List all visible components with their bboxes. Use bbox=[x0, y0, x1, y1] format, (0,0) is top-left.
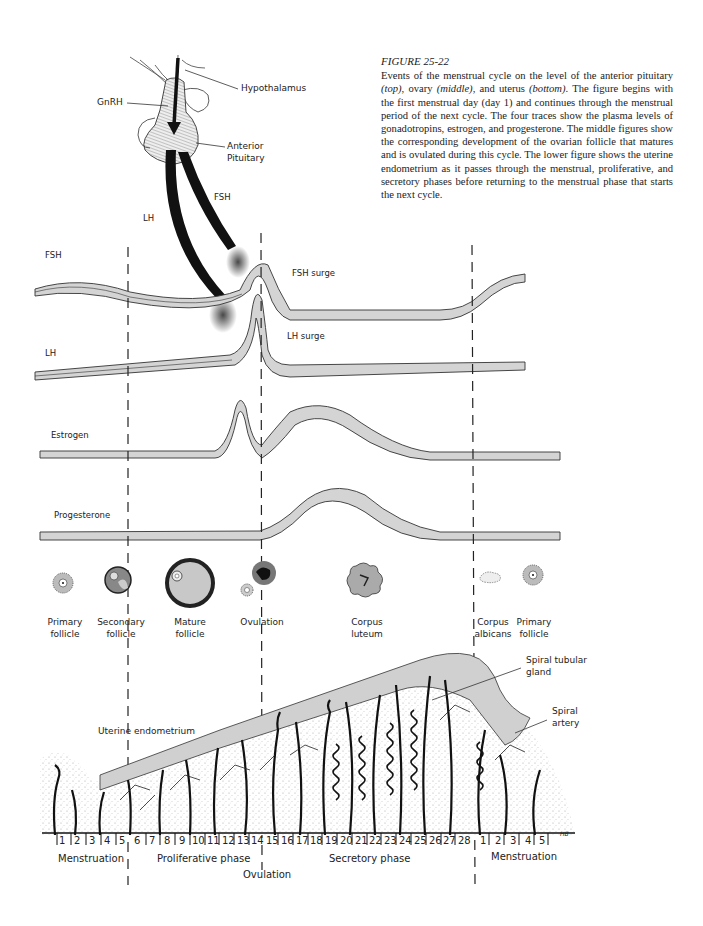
ovary-stage-ovulation: Ovulation bbox=[237, 616, 287, 628]
day-label: 21 bbox=[355, 835, 368, 846]
day-label: 20 bbox=[340, 835, 353, 846]
phase-menstruation-label: Menstruation bbox=[58, 853, 124, 864]
day-label: 7 bbox=[149, 835, 155, 846]
anterior-pituitary-line1: Anterior bbox=[227, 141, 263, 151]
day-label: 4 bbox=[104, 835, 110, 846]
day-label: 25 bbox=[414, 835, 427, 846]
day-label: 11 bbox=[207, 835, 220, 846]
lh-arrow-label: LH bbox=[143, 213, 154, 223]
pituitary-illustration bbox=[127, 55, 238, 164]
artist-initials: HB bbox=[560, 830, 569, 837]
day-label: 5 bbox=[119, 835, 125, 846]
mature-follicle-icon bbox=[167, 560, 213, 606]
stage-line1: Mature bbox=[174, 617, 206, 627]
day-label: 12 bbox=[222, 835, 235, 846]
day-label: 18 bbox=[310, 835, 323, 846]
spiral-tubular-gland-label: Spiral tubulargland bbox=[526, 654, 587, 678]
day-label: 6 bbox=[134, 835, 140, 846]
spiral-gland-line1: Spiral tubular bbox=[526, 655, 587, 665]
ovary-stage-corpus-luteum: Corpusluteum bbox=[345, 616, 389, 640]
day-label: 16 bbox=[281, 835, 294, 846]
estrogen-trace bbox=[40, 400, 560, 460]
spiral-artery-line2: artery bbox=[552, 718, 579, 728]
stage-line1: Secondary bbox=[97, 617, 145, 627]
phase-secretory-label: Secretory phase bbox=[329, 853, 410, 864]
fsh-arrow-label: FSH bbox=[214, 192, 231, 202]
uterine-endometrium bbox=[40, 653, 575, 835]
day-label: 17 bbox=[296, 835, 309, 846]
stage-line2: follicle bbox=[175, 629, 204, 639]
stage-line1: Primary bbox=[517, 617, 552, 627]
stage-line2: follicle bbox=[106, 629, 135, 639]
day-label: 1 bbox=[480, 835, 486, 846]
progesterone-trace-label: Progesterone bbox=[54, 510, 110, 520]
spiral-gland-line2: gland bbox=[526, 667, 551, 677]
ovary-stage-mature-follicle: Maturefollicle bbox=[168, 616, 212, 640]
primary-follicle-next-icon bbox=[523, 565, 543, 585]
ovary-stages bbox=[53, 560, 543, 606]
phase-proliferative-label: Proliferative phase bbox=[157, 853, 250, 864]
stage-line1: Corpus bbox=[351, 617, 383, 627]
gnrh-label: GnRH bbox=[97, 97, 123, 107]
fsh-trace-label: FSH bbox=[45, 250, 62, 260]
progesterone-trace bbox=[40, 488, 560, 540]
corpus-albicans-icon bbox=[480, 572, 500, 583]
ovary-stage-primary-follicle-next: Primaryfollicle bbox=[514, 616, 554, 640]
corpus-luteum-icon bbox=[347, 563, 383, 597]
primary-follicle-icon bbox=[53, 573, 73, 593]
anterior-pituitary-label: AnteriorPituitary bbox=[227, 140, 265, 164]
day-label: 2 bbox=[74, 835, 80, 846]
day-label: 15 bbox=[266, 835, 279, 846]
day-label: 3 bbox=[510, 835, 516, 846]
uterine-endometrium-label: Uterine endometrium bbox=[98, 726, 195, 736]
day-label: 3 bbox=[89, 835, 95, 846]
ovary-stage-primary-follicle: Primaryfollicle bbox=[43, 616, 87, 640]
stage-line1: Ovulation bbox=[240, 617, 283, 627]
day-label: 8 bbox=[164, 835, 170, 846]
phase-ovulation-label: Ovulation bbox=[243, 869, 291, 880]
day-label: 22 bbox=[369, 835, 382, 846]
spiral-artery-label: Spiralartery bbox=[552, 705, 579, 729]
day-label: 19 bbox=[325, 835, 338, 846]
ovary-stage-corpus-albicans: Corpusalbicans bbox=[472, 616, 514, 640]
estrogen-trace-label: Estrogen bbox=[51, 430, 89, 440]
ovulation-icon bbox=[241, 561, 276, 596]
day-label: 23 bbox=[384, 835, 397, 846]
menstrual-cycle-diagram bbox=[0, 0, 703, 926]
stage-line2: follicle bbox=[519, 629, 548, 639]
day-label: 4 bbox=[525, 835, 531, 846]
anterior-pituitary-line2: Pituitary bbox=[227, 153, 265, 163]
day-label: 14 bbox=[251, 835, 264, 846]
stage-line2: luteum bbox=[351, 629, 383, 639]
day-label: 10 bbox=[192, 835, 205, 846]
ovary-stage-secondary-follicle: Secondaryfollicle bbox=[94, 616, 148, 640]
day-label: 28 bbox=[458, 835, 471, 846]
day-label: 9 bbox=[179, 835, 185, 846]
day-label: 5 bbox=[539, 835, 545, 846]
fsh-surge-label: FSH surge bbox=[292, 268, 335, 278]
stage-line1: Primary bbox=[48, 617, 83, 627]
spiral-artery-line1: Spiral bbox=[552, 706, 578, 716]
day-label: 2 bbox=[495, 835, 501, 846]
lh-trace-label: LH bbox=[45, 348, 56, 358]
fsh-trace bbox=[35, 264, 525, 320]
day-label: 27 bbox=[443, 835, 456, 846]
lh-surge-label: LH surge bbox=[287, 331, 325, 341]
day-label: 13 bbox=[237, 835, 250, 846]
day-label: 1 bbox=[59, 835, 65, 846]
phase-menstruation-next-label: Menstruation bbox=[491, 851, 557, 862]
day-label: 26 bbox=[429, 835, 442, 846]
hypothalamus-label: Hypothalamus bbox=[241, 83, 306, 93]
day-label: 24 bbox=[399, 835, 412, 846]
stage-line2: albicans bbox=[474, 629, 511, 639]
secondary-follicle-icon bbox=[105, 567, 131, 593]
stage-line2: follicle bbox=[50, 629, 79, 639]
stage-line1: Corpus bbox=[477, 617, 509, 627]
